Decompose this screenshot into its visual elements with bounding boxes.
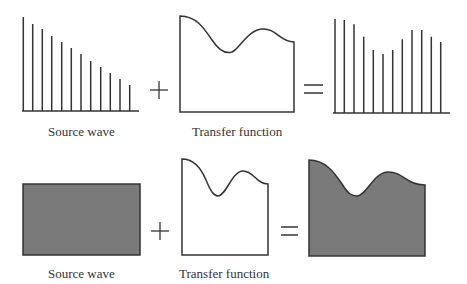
source-wave-label: Source wave <box>48 124 115 139</box>
equals-sign <box>304 85 323 93</box>
transfer-function-curve <box>182 159 268 255</box>
result-wave-bars <box>333 19 450 113</box>
transfer-function-curve <box>180 16 294 112</box>
source-wave-filled <box>23 184 140 255</box>
source-wave-bars <box>22 17 139 111</box>
plus-sign <box>151 222 169 240</box>
equals-sign <box>281 227 298 235</box>
source-wave-label: Source wave <box>48 266 115 281</box>
transfer-function-diagram: Source wave Transfer function Source wav… <box>0 0 467 284</box>
transfer-function-label: Transfer function <box>179 266 270 281</box>
transfer-function-label: Transfer function <box>192 124 283 139</box>
plus-sign <box>150 81 168 99</box>
result-wave-filled <box>309 160 425 256</box>
